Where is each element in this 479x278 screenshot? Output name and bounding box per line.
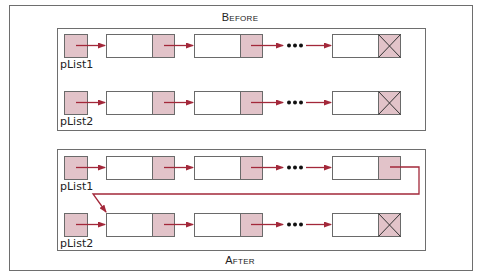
node-data-cell <box>333 214 379 237</box>
list-row: pList2 <box>60 214 401 251</box>
node-data-cell <box>107 35 153 58</box>
node-data-cell <box>195 92 241 115</box>
pointer-label: pList2 <box>60 115 93 128</box>
node-data-cell <box>195 157 241 180</box>
list-node <box>333 214 401 237</box>
ellipsis <box>287 223 303 227</box>
list-row: pList2 <box>60 92 401 129</box>
ellipsis <box>287 101 303 105</box>
node-data-cell <box>333 35 379 58</box>
list-node <box>333 92 401 115</box>
pointer-label: pList2 <box>60 237 93 250</box>
ellipsis <box>287 44 303 48</box>
node-data-cell <box>333 157 379 180</box>
before-title: Before <box>222 11 259 23</box>
list-row: pList1 <box>60 157 401 194</box>
node-next-cell <box>379 157 401 180</box>
list-row: pList1 <box>60 35 401 72</box>
list-node <box>333 157 401 180</box>
node-data-cell <box>195 35 241 58</box>
node-data-cell <box>107 214 153 237</box>
pointer-label: pList1 <box>60 58 93 71</box>
linked-list-diagram: Before pList1pList2pList1pList2 After <box>0 0 479 278</box>
node-data-cell <box>333 92 379 115</box>
node-data-cell <box>107 157 153 180</box>
pointer-label: pList1 <box>60 180 93 193</box>
list-node <box>333 35 401 58</box>
node-data-cell <box>195 214 241 237</box>
ellipsis <box>287 166 303 170</box>
node-data-cell <box>107 92 153 115</box>
after-title: After <box>225 254 255 266</box>
